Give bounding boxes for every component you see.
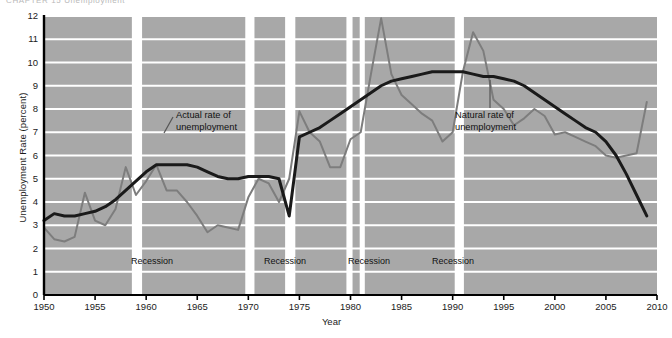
recession-label: Recession bbox=[348, 256, 390, 266]
x-axis-tick-label: 1950 bbox=[21, 301, 67, 312]
x-axis-tick-label: 1965 bbox=[174, 301, 220, 312]
annotation-line-1: Natural rate of bbox=[455, 110, 516, 122]
x-axis-tick-label: 1970 bbox=[225, 301, 271, 312]
actual-rate-annotation: Actual rate ofunemployment bbox=[176, 110, 237, 133]
x-axis-tick-label: 2000 bbox=[532, 301, 578, 312]
y-axis-tick-label: 12 bbox=[12, 11, 38, 21]
y-axis-tick-label: 11 bbox=[12, 34, 38, 44]
x-axis-tick-label: 1980 bbox=[328, 301, 374, 312]
y-axis-tick-label: 0 bbox=[12, 290, 38, 300]
annotation-line-2: unemployment bbox=[455, 122, 516, 134]
x-axis-title: Year bbox=[0, 316, 663, 327]
y-axis-tick-label: 1 bbox=[12, 267, 38, 277]
recession-label: Recession bbox=[264, 256, 306, 266]
x-axis-tick-label: 1985 bbox=[379, 301, 425, 312]
x-axis-tick-label: 1990 bbox=[430, 301, 476, 312]
x-axis-tick-label: 1955 bbox=[72, 301, 118, 312]
y-axis-title: Unemployment Rate (percent) bbox=[17, 58, 28, 258]
x-axis-tick-label: 1975 bbox=[276, 301, 322, 312]
annotation-line-1: Actual rate of bbox=[176, 110, 237, 122]
recession-label: Recession bbox=[131, 256, 173, 266]
x-axis-tick-label: 2010 bbox=[634, 301, 672, 312]
recession-label: Recession bbox=[432, 256, 474, 266]
x-axis-tick-label: 2005 bbox=[583, 301, 629, 312]
natural-rate-annotation: Natural rate ofunemployment bbox=[455, 110, 516, 133]
x-axis-tick-label: 1960 bbox=[123, 301, 169, 312]
x-axis-tick-label: 1995 bbox=[481, 301, 527, 312]
annotation-line-2: unemployment bbox=[176, 122, 237, 134]
